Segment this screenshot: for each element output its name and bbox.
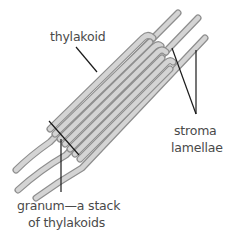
granum-label-line2: of thylakoids — [28, 215, 105, 230]
thylakoid-label: thylakoid — [50, 29, 105, 44]
granum-label-line1: granum—a stack — [17, 198, 121, 213]
thylakoid-leader-line — [76, 47, 97, 72]
granum-diagram: thylakoid stroma lamellae granum—a stack… — [0, 0, 232, 234]
stroma-lamellae-label-line1: stroma — [174, 123, 217, 138]
granum-stack — [16, 13, 205, 198]
stroma-lamellae-label-line2: lamellae — [171, 140, 223, 155]
